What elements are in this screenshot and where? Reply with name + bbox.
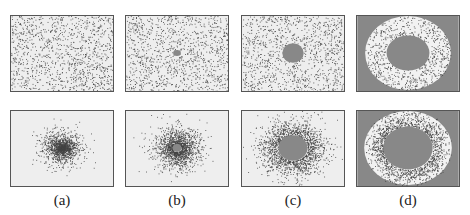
- subfigure-label: (d): [356, 192, 460, 209]
- panel-b-bottom: [125, 110, 229, 187]
- panel-a-bottom: [10, 110, 114, 187]
- panel-b-top: [125, 15, 229, 92]
- subfigure-label: (a): [10, 192, 114, 209]
- panel-d-bottom: [356, 110, 460, 187]
- panel-c-bottom: [241, 110, 345, 187]
- subfigure-label: (c): [241, 192, 345, 209]
- panel-a-top: [10, 15, 114, 92]
- panel-d-top: [356, 15, 460, 92]
- panel-c-top: [241, 15, 345, 92]
- subfigure-label: (b): [125, 192, 229, 209]
